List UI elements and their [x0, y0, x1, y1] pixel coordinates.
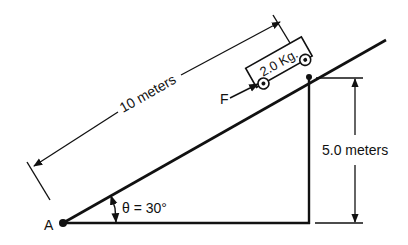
- angle-arrow: [115, 208, 116, 222]
- support-top-dot: [306, 74, 312, 80]
- cart: 2.0 Kg.: [246, 37, 315, 92]
- force-label: F: [220, 91, 229, 107]
- height-label: 5.0 meters: [322, 142, 388, 158]
- angle-label: θ = 30°: [122, 200, 167, 216]
- length-tick-right: [273, 15, 290, 43]
- incline-surface: [63, 40, 386, 223]
- force-arrow: [230, 84, 258, 98]
- point-a-dot: [59, 219, 67, 227]
- length-label: 10 meters: [117, 71, 179, 116]
- length-dim-line-left: [34, 112, 118, 166]
- angle-arrow: [111, 196, 115, 208]
- point-a-label: A: [44, 217, 54, 233]
- length-tick-left: [27, 162, 50, 200]
- incline-diagram: A θ = 30° 10 meters 5.0 meters 2.0 Kg. F: [0, 0, 408, 245]
